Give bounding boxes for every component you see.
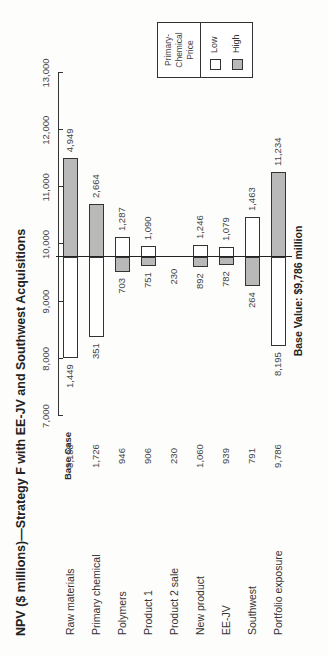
category-label: Raw materials bbox=[64, 568, 76, 635]
legend-swatch-high bbox=[232, 59, 243, 70]
bar-high bbox=[193, 257, 208, 267]
base-case-value: 1,726 bbox=[90, 444, 101, 468]
bar-low bbox=[245, 217, 260, 257]
bar-low bbox=[271, 257, 286, 347]
value-label-high: 782 bbox=[220, 271, 231, 287]
axis-tick-label: 11,000 bbox=[40, 173, 51, 201]
category-label: Portfolio exposure bbox=[272, 550, 284, 635]
axis-tick-label: 7,000 bbox=[40, 404, 51, 428]
bar-high bbox=[63, 158, 78, 257]
legend-title: Primary- bbox=[163, 23, 173, 77]
legend: Primary-ChemicalPriceLowHigh bbox=[157, 22, 253, 78]
value-label-high: 892 bbox=[194, 273, 205, 289]
bar-high bbox=[245, 257, 260, 286]
bar-low bbox=[63, 257, 78, 359]
axis-tick-label: 10,000 bbox=[40, 230, 51, 259]
base-case-value: 9,786 bbox=[272, 444, 283, 468]
category-label: Southwest bbox=[246, 586, 258, 635]
category-label: Product 2 sale bbox=[168, 568, 180, 635]
axis-tick-label: 9,000 bbox=[40, 290, 51, 314]
base-case-value: 3,188 bbox=[64, 444, 75, 468]
value-label: 230 bbox=[168, 269, 179, 285]
legend-title: Price bbox=[185, 23, 195, 77]
category-label: EE-JV bbox=[220, 605, 232, 635]
value-label-low: 351 bbox=[90, 343, 101, 359]
value-label-low: 1,449 bbox=[64, 364, 75, 388]
legend-label-low: Low bbox=[209, 36, 219, 53]
axis-tick bbox=[58, 129, 63, 130]
tornado-chart: NPV ($ millions)—Strategy F with EE-JV a… bbox=[0, 0, 328, 656]
value-label-low: 1,463 bbox=[246, 187, 257, 211]
value-label-low: 1,079 bbox=[220, 217, 231, 241]
bar-high bbox=[89, 204, 104, 257]
value-label-high: 264 bbox=[246, 292, 257, 308]
base-case-value: 906 bbox=[142, 448, 153, 464]
category-label: Product 1 bbox=[142, 590, 154, 635]
bar-high bbox=[115, 257, 130, 272]
legend-label-high: High bbox=[231, 34, 241, 53]
axis-tick bbox=[58, 72, 63, 73]
value-label-low: 8,195 bbox=[272, 352, 283, 376]
axis-tick-label: 13,000 bbox=[40, 58, 51, 87]
axis-line bbox=[58, 73, 59, 416]
value-label-high: 703 bbox=[116, 278, 127, 294]
axis-tick-label: 12,000 bbox=[40, 116, 51, 145]
bar-low bbox=[89, 257, 104, 337]
axis-tick bbox=[58, 415, 63, 416]
value-label-high: 4,949 bbox=[64, 128, 75, 152]
value-label-high: 751 bbox=[142, 272, 153, 288]
value-label-high: 2,664 bbox=[90, 174, 101, 198]
bar-high bbox=[219, 257, 234, 265]
base-case-value: 1,060 bbox=[194, 444, 205, 468]
bar-high bbox=[271, 172, 286, 257]
value-label-low: 1,246 bbox=[194, 215, 205, 239]
legend-divider bbox=[200, 23, 201, 77]
axis-tick-label: 8,000 bbox=[40, 347, 51, 371]
base-case-value: 939 bbox=[220, 448, 231, 464]
chart-title: NPV ($ millions)—Strategy F with EE-JV a… bbox=[14, 229, 28, 636]
base-value-caption: Base Value: $9,786 million bbox=[292, 226, 304, 357]
legend-title: Chemical bbox=[174, 23, 184, 77]
bar-high bbox=[141, 257, 156, 266]
bar-low bbox=[115, 237, 130, 257]
category-label: Primary chemical bbox=[90, 554, 102, 635]
category-label: Polymers bbox=[116, 591, 128, 635]
legend-swatch-low bbox=[210, 59, 221, 70]
value-label-high: 11,234 bbox=[272, 138, 283, 166]
base-case-value: 946 bbox=[116, 448, 127, 464]
base-case-value: 230 bbox=[168, 448, 179, 464]
category-label: New product bbox=[194, 576, 206, 635]
value-label-low: 1,287 bbox=[116, 207, 127, 231]
value-label-low: 1,090 bbox=[142, 216, 153, 240]
base-value-line bbox=[56, 256, 292, 257]
base-case-value: 791 bbox=[246, 448, 257, 464]
